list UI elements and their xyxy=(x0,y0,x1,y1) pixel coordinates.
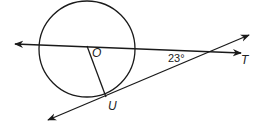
secant-line-ot xyxy=(15,44,241,53)
tangent-line-ut xyxy=(48,35,249,120)
angle-label: 23° xyxy=(168,52,185,64)
geometry-diagram: O U T 23° xyxy=(0,0,261,134)
label-t: T xyxy=(241,53,250,67)
label-o: O xyxy=(92,46,101,60)
label-u: U xyxy=(108,99,117,113)
circle-o xyxy=(39,1,135,97)
